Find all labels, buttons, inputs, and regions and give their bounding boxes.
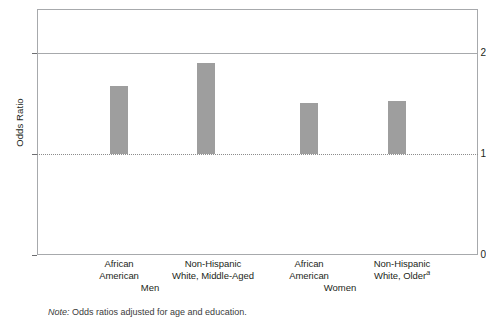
category-label-4-text: White, Older xyxy=(374,270,426,281)
category-label-1-line1: African xyxy=(79,258,159,270)
plot-area xyxy=(37,9,478,255)
category-label-2-line1: Non-Hispanic xyxy=(151,258,275,270)
group-label-women: Women xyxy=(300,282,380,293)
category-label-2: Non-Hispanic White, Middle-Aged xyxy=(151,258,275,281)
group-label-men: Men xyxy=(110,282,190,293)
bar-african-american-men xyxy=(110,86,128,155)
figure-note-prefix: Note: xyxy=(48,307,70,317)
y-tick-mark-0 xyxy=(32,255,37,256)
gridline-value-2 xyxy=(37,53,478,54)
category-label-4-line2: White, Oldera xyxy=(344,270,460,282)
figure-note-text: Odds ratios adjusted for age and educati… xyxy=(72,307,247,317)
category-label-4: Non-Hispanic White, Oldera xyxy=(344,258,460,281)
footnote-marker-a: a xyxy=(426,268,430,275)
category-label-3-line2: American xyxy=(269,270,349,282)
category-label-1: African American xyxy=(79,258,159,281)
bar-nonhispanic-white-older xyxy=(388,101,406,154)
bar-nonhispanic-white-middle-aged xyxy=(197,63,215,154)
category-label-4-line1: Non-Hispanic xyxy=(344,258,460,270)
category-label-3-line1: African xyxy=(269,258,349,270)
category-label-3: African American xyxy=(269,258,349,281)
category-label-1-line2: American xyxy=(79,270,159,282)
y-axis-title: Odds Ratio xyxy=(14,73,25,173)
figure-note: Note: Odds ratios adjusted for age and e… xyxy=(48,307,478,318)
category-label-2-line2: White, Middle-Aged xyxy=(151,270,275,282)
bar-african-american-women xyxy=(300,103,318,154)
reference-line-value-1 xyxy=(37,154,478,155)
